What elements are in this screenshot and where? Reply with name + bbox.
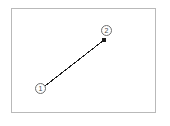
diagram-frame [11, 8, 156, 113]
step-badge-1: 1 [35, 83, 46, 94]
step-badge-2: 2 [101, 25, 112, 36]
step-badge-1-label: 1 [39, 85, 43, 92]
step-badge-2-label: 2 [105, 27, 109, 34]
diagram-canvas: 1 2 [0, 0, 170, 126]
